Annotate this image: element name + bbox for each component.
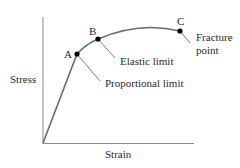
point-c-marker [177,28,182,33]
point-c-label: C [177,15,184,27]
point-b-marker [95,36,100,41]
proportional-limit-label: Proportional limit [105,77,184,89]
y-axis-label: Stress [10,73,36,85]
x-axis-label: Strain [105,148,131,160]
leader-line-a [77,54,100,81]
point-a-marker [74,51,79,56]
point-a-label: A [64,48,72,60]
leader-line-b [98,39,115,58]
fracture-point-label-1: Fracture [196,31,233,43]
point-b-label: B [89,25,96,37]
fracture-point-label-2: point [196,44,219,56]
elastic-limit-label: Elastic limit [120,55,173,67]
